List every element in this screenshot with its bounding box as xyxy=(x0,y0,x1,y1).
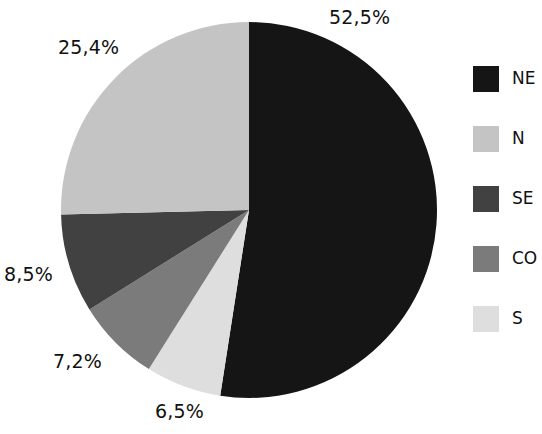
legend-swatch-icon xyxy=(473,306,499,332)
chart-legend: NE N SE CO S xyxy=(470,60,542,360)
legend-item-label: N xyxy=(512,128,525,148)
legend-item-label: SE xyxy=(512,188,534,208)
legend-item-label: NE xyxy=(512,68,535,88)
legend-item-se[interactable]: SE xyxy=(470,180,542,240)
legend-item-co[interactable]: CO xyxy=(470,240,542,300)
legend-item-label: S xyxy=(512,308,523,328)
pie-label-n: 25,4% xyxy=(58,36,119,58)
legend-item-ne[interactable]: NE xyxy=(470,60,542,120)
pie-label-ne: 52,5% xyxy=(329,6,390,28)
legend-swatch-icon xyxy=(473,246,499,272)
legend-item-label: CO xyxy=(512,248,537,268)
legend-swatch-icon xyxy=(473,126,499,152)
pie-label-se: 8,5% xyxy=(4,263,53,285)
pie-label-co: 7,2% xyxy=(53,350,102,372)
legend-item-s[interactable]: S xyxy=(470,300,542,360)
chart-plot-area: 52,5% 25,4% 8,5% 7,2% 6,5% xyxy=(0,0,460,434)
legend-swatch-icon xyxy=(473,186,499,212)
pie-slice-ne[interactable] xyxy=(220,22,437,398)
pie-chart-figure: 52,5% 25,4% 8,5% 7,2% 6,5% NE N SE CO S xyxy=(0,0,542,434)
legend-swatch-icon xyxy=(473,66,499,92)
legend-item-n[interactable]: N xyxy=(470,120,542,180)
pie-label-s: 6,5% xyxy=(155,400,204,422)
pie-slices xyxy=(61,22,437,398)
